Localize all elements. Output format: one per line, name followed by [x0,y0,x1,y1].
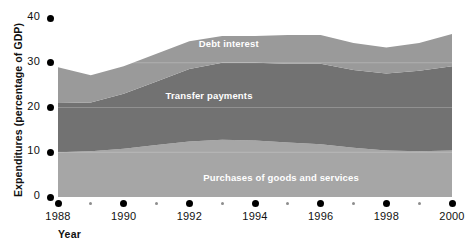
y-tick-label: 10 [14,144,40,156]
x-tick-dot-major [186,200,193,207]
y-tick-label: 20 [14,100,40,112]
series-label-0: Debt interest [199,38,259,49]
x-tick-label: 2000 [432,210,472,222]
x-axis-title: Year [58,228,81,240]
x-tick-label: 1994 [235,210,275,222]
y-tick-dot [47,104,54,111]
x-tick-label: 1990 [104,210,144,222]
y-tick-label: 30 [14,55,40,67]
x-tick-label: 1992 [169,210,209,222]
y-tick-label: 0 [14,189,40,201]
x-tick-dot-minor [155,202,158,205]
x-tick-dot-major [449,200,456,207]
y-tick-dot [47,149,54,156]
x-tick-dot-major [383,200,390,207]
x-tick-dot-major [55,200,62,207]
x-tick-dot-major [252,200,259,207]
chart-figure: Expenditures (percentage of GDP) 0102030… [0,0,474,249]
x-tick-label: 1988 [38,210,78,222]
y-tick-dot [47,15,54,22]
y-tick-label: 40 [14,10,40,22]
x-tick-dot-minor [221,202,224,205]
y-tick-dot [47,194,54,201]
x-tick-label: 1996 [301,210,341,222]
series-label-1: Transfer payments [166,90,253,101]
x-tick-dot-minor [418,202,421,205]
x-tick-label: 1998 [366,210,406,222]
series-label-2: Purchases of goods and services [203,172,359,183]
x-tick-dot-minor [352,202,355,205]
